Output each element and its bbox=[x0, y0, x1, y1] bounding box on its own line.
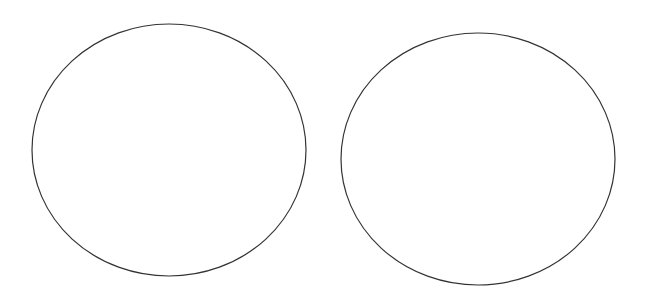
diagram-canvas bbox=[0, 0, 646, 298]
left-ellipse bbox=[32, 24, 306, 276]
right-ellipse bbox=[341, 33, 615, 285]
